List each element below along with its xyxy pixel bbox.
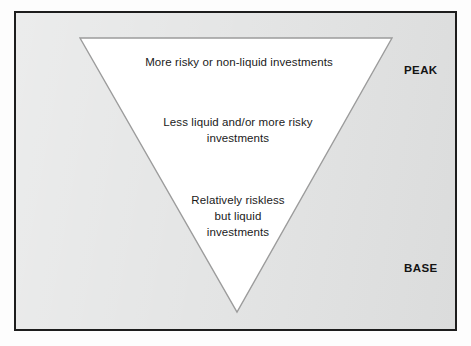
label-peak: PEAK [404, 64, 438, 76]
label-base: BASE [404, 262, 438, 274]
triangle-text-middle: Less liquid and/or more risky investment… [118, 114, 358, 146]
triangle-text-bottom: Relatively riskless but liquid investmen… [143, 192, 333, 240]
diagram-canvas: More risky or non-liquid investments Les… [0, 0, 471, 346]
triangle-text-top: More risky or non-liquid investments [99, 54, 379, 70]
